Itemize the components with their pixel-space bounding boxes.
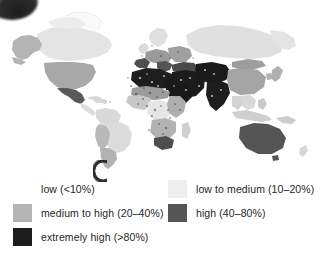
legend-swatch-extremely-high (13, 228, 32, 246)
map-legend: low (<10%) low to medium (10–20%) medium… (0, 176, 321, 259)
legend-item-low-to-medium: low to medium (10–20%) (168, 179, 314, 199)
legend-label-medium-to-high: medium to high (20–40%) (41, 208, 164, 219)
region-korea (266, 73, 272, 80)
map-area (0, 0, 321, 172)
legend-label-high: high (40–80%) (196, 208, 266, 219)
legend-swatch-low-to-medium (168, 180, 187, 198)
legend-swatch-medium-to-high (13, 204, 32, 222)
region-hispaniola (103, 100, 107, 104)
legend-swatch-high (168, 204, 187, 222)
world-map-figure: low (<10%) low to medium (10–20%) medium… (0, 0, 321, 259)
legend-label-low: low (<10%) (41, 184, 95, 195)
legend-item-extremely-high: extremely high (>80%) (13, 227, 148, 247)
legend-item-medium-to-high: medium to high (20–40%) (13, 203, 164, 223)
legend-item-high: high (40–80%) (168, 203, 266, 223)
legend-label-low-to-medium: low to medium (10–20%) (196, 184, 314, 195)
legend-item-low: low (<10%) (13, 179, 95, 199)
region-tasmania (272, 155, 279, 161)
region-puerto-rico (109, 101, 111, 103)
world-map-svg (0, 0, 321, 172)
legend-swatch-low (13, 180, 32, 198)
legend-label-extremely-high: extremely high (>80%) (41, 232, 148, 243)
